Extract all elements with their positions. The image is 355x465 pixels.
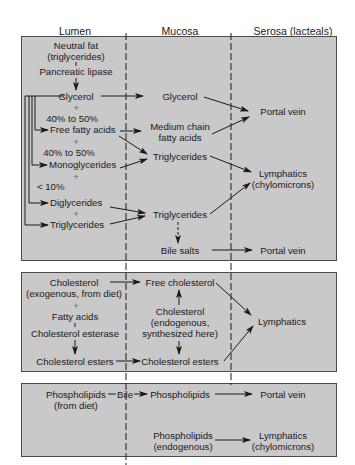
arrow-overlay bbox=[0, 0, 355, 465]
